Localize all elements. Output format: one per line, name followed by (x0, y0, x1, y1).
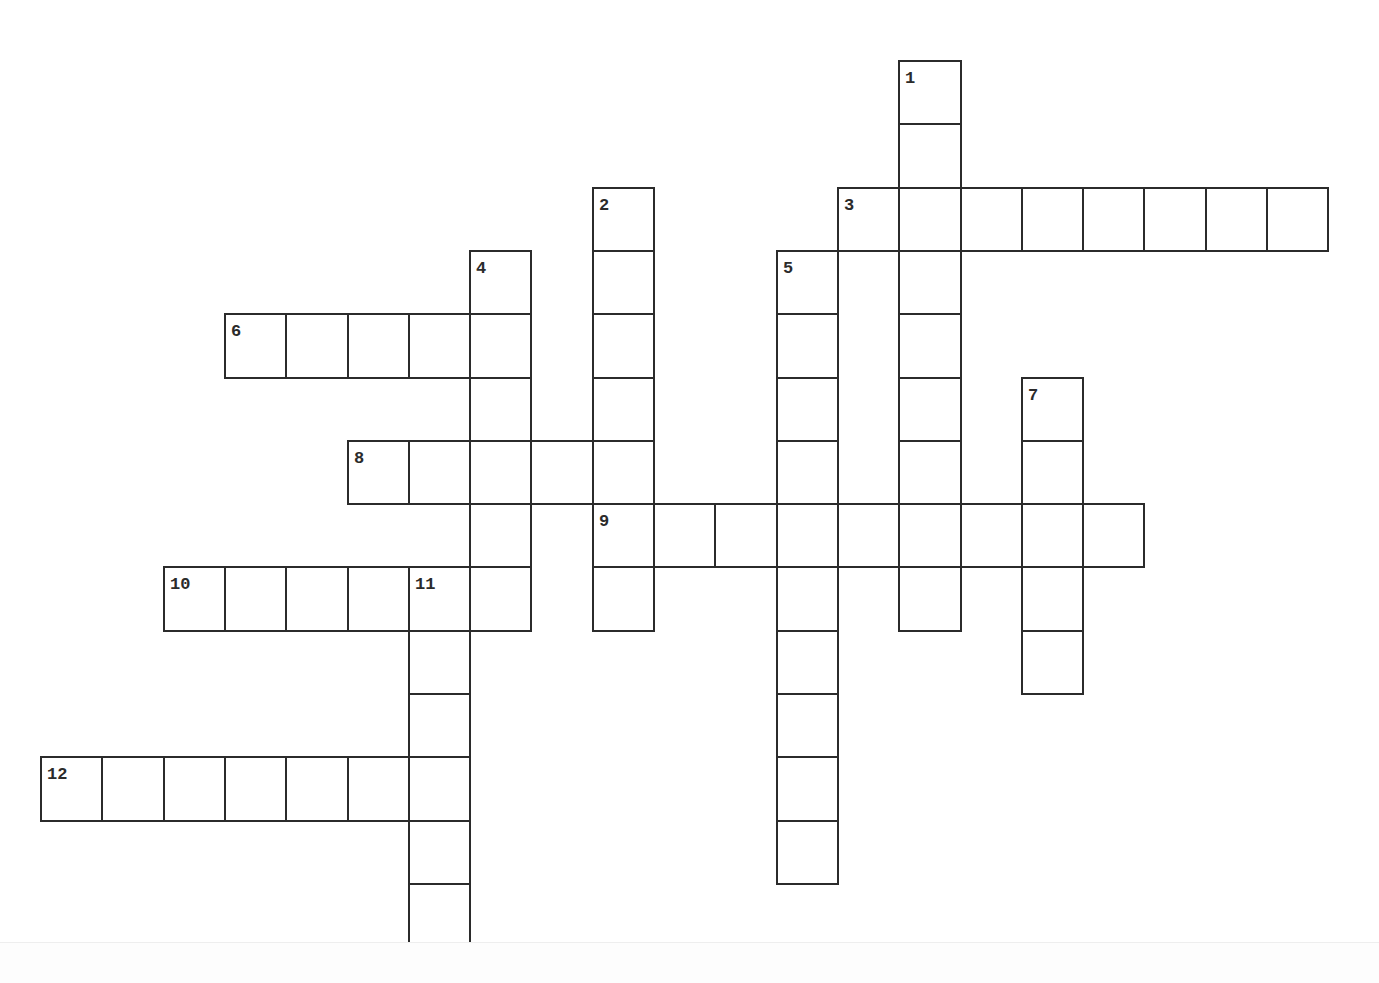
crossword-cell[interactable] (1021, 187, 1084, 252)
clue-number-label: 11 (415, 576, 435, 593)
crossword-cell[interactable] (1205, 187, 1268, 252)
clue-number-label: 8 (354, 450, 364, 467)
clue-number-label: 6 (231, 323, 241, 340)
crossword-cell[interactable] (776, 756, 839, 822)
crossword-cell[interactable] (898, 503, 962, 568)
crossword-cell[interactable] (1082, 503, 1145, 568)
crossword-cell[interactable] (592, 313, 655, 379)
crossword-cell[interactable] (592, 250, 655, 315)
crossword-cell[interactable] (469, 503, 532, 568)
crossword-cell[interactable] (714, 503, 778, 568)
crossword-cell[interactable] (347, 566, 410, 632)
crossword-cell[interactable] (653, 503, 716, 568)
crossword-cell[interactable] (1021, 566, 1084, 632)
crossword-cell[interactable] (592, 440, 655, 505)
crossword-cell[interactable] (285, 313, 349, 379)
crossword-cell[interactable] (776, 440, 839, 505)
crossword-cell[interactable] (1021, 440, 1084, 505)
crossword-cell[interactable]: 7 (1021, 377, 1084, 442)
crossword-cell[interactable]: 12 (40, 756, 103, 822)
crossword-cell[interactable] (776, 503, 839, 568)
crossword-cell[interactable] (776, 313, 839, 379)
clue-number-label: 4 (476, 260, 486, 277)
crossword-cell[interactable] (101, 756, 165, 822)
crossword-cell[interactable] (408, 820, 471, 885)
crossword-cell[interactable] (776, 820, 839, 885)
crossword-cell[interactable] (469, 566, 532, 632)
crossword-cell[interactable] (837, 503, 900, 568)
crossword-cell[interactable] (408, 883, 471, 948)
crossword-cell[interactable] (347, 756, 410, 822)
crossword-cell[interactable] (530, 440, 594, 505)
crossword-cell[interactable] (469, 313, 532, 379)
crossword-cell[interactable] (898, 313, 962, 379)
crossword-cell[interactable] (592, 566, 655, 632)
crossword-cell[interactable] (898, 440, 962, 505)
crossword-cell[interactable]: 11 (408, 566, 471, 632)
crossword-cell[interactable] (224, 756, 287, 822)
crossword-cell[interactable] (592, 377, 655, 442)
clue-number-label: 2 (599, 197, 609, 214)
crossword-cell[interactable]: 2 (592, 187, 655, 252)
crossword-cell[interactable]: 10 (163, 566, 226, 632)
clue-number-label: 7 (1028, 387, 1038, 404)
crossword-cell[interactable] (408, 313, 471, 379)
clue-number-label: 5 (783, 260, 793, 277)
crossword-cell[interactable] (408, 756, 471, 822)
crossword-cell[interactable] (898, 250, 962, 315)
crossword-cell[interactable] (408, 440, 471, 505)
crossword-cell[interactable] (776, 630, 839, 695)
crossword-cell[interactable] (1266, 187, 1329, 252)
crossword-cell[interactable] (776, 377, 839, 442)
crossword-cell[interactable] (1021, 630, 1084, 695)
crossword-cell[interactable]: 3 (837, 187, 900, 252)
crossword-cell[interactable]: 5 (776, 250, 839, 315)
crossword-cell[interactable] (408, 630, 471, 695)
crossword-cell[interactable] (163, 756, 226, 822)
clue-number-label: 9 (599, 513, 609, 530)
crossword-cell[interactable] (898, 123, 962, 189)
crossword-cell[interactable]: 1 (898, 60, 962, 125)
crossword-cell[interactable] (960, 187, 1023, 252)
crossword-cell[interactable]: 9 (592, 503, 655, 568)
crossword-cell[interactable] (898, 566, 962, 632)
crossword-cell[interactable] (898, 377, 962, 442)
crossword-cell[interactable]: 8 (347, 440, 410, 505)
clue-number-label: 12 (47, 766, 67, 783)
crossword-cell[interactable]: 4 (469, 250, 532, 315)
crossword-cell[interactable] (1021, 503, 1084, 568)
crossword-cell[interactable] (776, 693, 839, 758)
clue-number-label: 1 (905, 70, 915, 87)
crossword-cell[interactable] (469, 377, 532, 442)
page-bottom-edge (0, 942, 1379, 983)
crossword-cell[interactable]: 6 (224, 313, 287, 379)
crossword-cell[interactable] (347, 313, 410, 379)
crossword-cell[interactable] (1143, 187, 1207, 252)
crossword-cell[interactable] (898, 187, 962, 252)
crossword-cell[interactable] (285, 566, 349, 632)
crossword-cell[interactable] (776, 566, 839, 632)
crossword-cell[interactable] (224, 566, 287, 632)
clue-number-label: 3 (844, 197, 854, 214)
crossword-cell[interactable] (1082, 187, 1145, 252)
clue-number-label: 10 (170, 576, 190, 593)
crossword-cell[interactable] (408, 693, 471, 758)
crossword-cell[interactable] (960, 503, 1023, 568)
crossword-cell[interactable] (469, 440, 532, 505)
crossword-grid: 129345678101112 (0, 0, 1379, 944)
crossword-cell[interactable] (285, 756, 349, 822)
